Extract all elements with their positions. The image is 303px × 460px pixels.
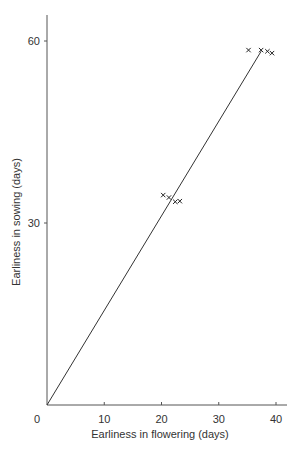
- y-tick-label: 60: [28, 35, 40, 47]
- x-tick-label: 20: [155, 413, 167, 425]
- x-marker-icon: [178, 199, 182, 203]
- x-tick-label: 0: [34, 413, 40, 425]
- data-points: [161, 48, 274, 204]
- x-marker-icon: [173, 200, 177, 204]
- axes: [47, 15, 287, 405]
- x-marker-icon: [265, 49, 269, 53]
- y-axis-label: Earliness in sowing (days): [10, 158, 22, 286]
- x-marker-icon: [167, 195, 171, 199]
- fit-line-path: [47, 51, 261, 405]
- x-tick-label: 10: [98, 413, 110, 425]
- x-tick-label: 30: [213, 413, 225, 425]
- x-marker-icon: [270, 51, 274, 55]
- fit-line: [47, 51, 261, 405]
- x-tick-label: 40: [270, 413, 282, 425]
- x-marker-icon: [161, 193, 165, 197]
- x-marker-icon: [246, 48, 250, 52]
- y-tick-label: 30: [28, 217, 40, 229]
- ticks: 0102030403060: [28, 35, 282, 425]
- scatter-chart: 0102030403060 Earliness in flowering (da…: [0, 0, 303, 460]
- x-axis-label: Earliness in flowering (days): [91, 428, 229, 440]
